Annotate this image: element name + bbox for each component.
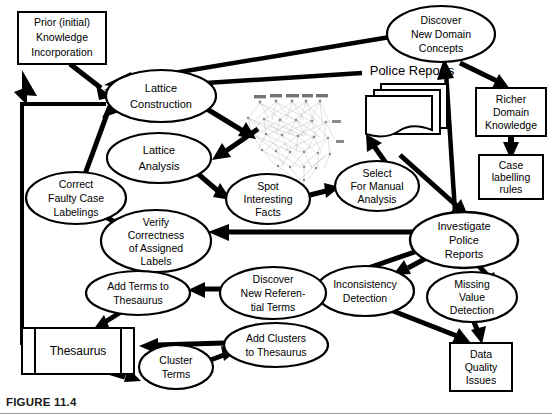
node-richer-domain-knowledge[interactable]: Richer Domain Knowledge — [476, 88, 546, 136]
node-missing-value-detection[interactable]: Missing Value Detection — [427, 272, 517, 322]
node-label-line: Discover — [253, 273, 294, 285]
figure-caption-text: FIGURE 11.4 — [6, 396, 77, 408]
node-label-line: of Assigned — [129, 242, 183, 254]
node-discover-new-referential-terms[interactable]: Discover New Referen- tial Terms — [220, 267, 326, 319]
node-inconsistency-detection[interactable]: Inconsistency Detection — [316, 266, 414, 316]
node-label-line: Interesting — [243, 193, 292, 205]
node-label-line: Thesaurus — [50, 344, 107, 358]
node-label-line: Domain — [493, 106, 529, 118]
edge-concepts-to-richer — [460, 63, 510, 89]
node-label-line: Case — [499, 159, 524, 171]
police-reports-document-stack[interactable] — [366, 84, 447, 136]
node-verify-correctness-of-assigned-labels[interactable]: Verify Correctness of Assigned Labels — [101, 210, 211, 272]
node-label-line: Quality — [465, 361, 498, 373]
node-cluster-terms[interactable]: Cluster Terms — [139, 345, 213, 389]
node-discover-new-domain-concepts[interactable]: Discover New Domain Concepts — [387, 6, 495, 62]
node-label-line: Detection — [343, 292, 388, 304]
node-label-line: Prior (initial) — [34, 16, 90, 28]
node-label-line: Facts — [255, 206, 281, 218]
node-label-line: Select — [362, 167, 391, 179]
node-investigate-police-reports[interactable]: Investigate Police Reports — [410, 212, 518, 268]
node-label-line: Issues — [466, 374, 496, 386]
node-thesaurus[interactable]: Thesaurus — [22, 328, 134, 374]
node-label-line: Thesaurus — [113, 294, 163, 306]
node-prior-knowledge-incorporation[interactable]: Prior (initial) Knowledge Incorporation — [18, 12, 106, 64]
node-label-line: rules — [500, 183, 523, 195]
node-add-clusters-to-thesaurus[interactable]: Add Clusters to Thesaurus — [224, 323, 328, 367]
node-lattice-analysis[interactable]: Lattice Analysis — [107, 133, 211, 183]
node-add-terms-to-thesaurus[interactable]: Add Terms to Thesaurus — [86, 271, 190, 315]
node-label-line: New Referen- — [241, 287, 306, 299]
node-label-line: New Domain — [411, 28, 471, 40]
node-label-line: Labels — [141, 255, 172, 267]
edge-referential-to-addterms — [188, 282, 222, 298]
edge-graphic-to-analysis — [212, 129, 258, 160]
node-label-line: Discover — [421, 14, 462, 26]
node-label-line: Missing — [454, 278, 490, 290]
diagram-canvas: Prior (initial) Knowledge Incorporation … — [0, 0, 552, 415]
node-label-line: Labelings — [54, 206, 99, 218]
edge-missing-to-dataquality — [471, 322, 486, 344]
node-label-line: Verify — [143, 216, 170, 228]
node-label-line: Incorporation — [31, 46, 92, 58]
node-select-for-manual-analysis[interactable]: Select For Manual Analysis — [335, 161, 419, 211]
figure-container: Prior (initial) Knowledge Incorporation … — [0, 0, 552, 415]
node-correct-faulty-case-labelings[interactable]: Correct Faulty Case Labelings — [26, 172, 126, 224]
figure-caption: FIGURE 11.4 — [0, 396, 552, 414]
node-label-line: to Thesaurus — [245, 346, 306, 358]
node-label-line: Knowledge — [36, 31, 88, 43]
node-label-line: Value — [459, 291, 485, 303]
node-label-line: For Manual — [350, 180, 403, 192]
node-lattice-construction[interactable]: Lattice Construction — [106, 70, 216, 122]
node-label-line: Reports — [445, 248, 484, 260]
edge-investigate-to-verify — [208, 224, 430, 241]
node-label-line: Faulty Case — [48, 192, 104, 204]
node-label-line: Analysis — [357, 193, 396, 205]
node-spot-interesting-facts[interactable]: Spot Interesting Facts — [226, 174, 310, 224]
node-label-line: Correctness — [128, 229, 185, 241]
node-case-labelling-rules[interactable]: Case labelling rules — [479, 155, 543, 199]
node-label-line: Lattice — [143, 144, 175, 156]
node-label-line: Knowledge — [485, 119, 537, 131]
label-police-reports: Police Reports — [370, 63, 455, 78]
node-label-line: Inconsistency — [333, 278, 397, 290]
node-label-line: Spot — [257, 180, 279, 192]
police-reports-text: Police Reports — [370, 63, 455, 78]
node-label-line: Lattice — [145, 82, 177, 94]
node-label-line: Police — [449, 234, 479, 246]
node-label-line: Data — [470, 348, 492, 360]
node-label-line: tial Terms — [251, 301, 296, 313]
node-data-quality-issues[interactable]: Data Quality Issues — [450, 343, 512, 391]
node-label-line: Terms — [162, 368, 191, 380]
node-label-line: Construction — [130, 98, 192, 110]
node-label-line: Analysis — [139, 160, 180, 172]
node-label-line: Add Clusters — [246, 332, 306, 344]
node-label-line: Add Terms to — [107, 280, 169, 292]
node-label-line: Detection — [450, 304, 495, 316]
node-label-line: Richer — [496, 93, 527, 105]
node-label-line: Cluster — [159, 354, 193, 366]
node-label-line: Investigate — [437, 220, 490, 232]
node-label-line: Correct — [59, 178, 94, 190]
node-label-line: Concepts — [419, 42, 463, 54]
node-label-line: labelling — [492, 171, 531, 183]
